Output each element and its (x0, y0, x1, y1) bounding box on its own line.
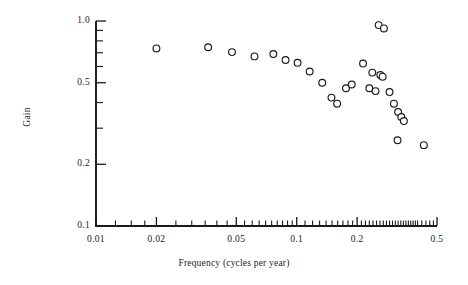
y-tick-label: 0.1 (50, 220, 90, 230)
axis-spine (96, 21, 437, 226)
data-point-marker (319, 79, 326, 86)
data-point-marker (294, 59, 301, 66)
data-point-marker (205, 44, 212, 51)
data-point-marker (328, 94, 335, 101)
x-tick-label: 0.5 (412, 234, 462, 244)
data-point-marker (360, 60, 367, 67)
x-axis-tick-marks (96, 217, 437, 226)
data-point-markers (153, 22, 427, 149)
data-point-marker (306, 68, 313, 75)
data-point-marker (394, 137, 401, 144)
data-point-marker (229, 49, 236, 56)
x-tick-label: 0.01 (71, 234, 121, 244)
data-point-marker (334, 100, 341, 107)
axis-lines (96, 21, 437, 226)
x-tick-label: 0.05 (211, 234, 261, 244)
data-point-marker (153, 45, 160, 52)
x-tick-label: 0.1 (272, 234, 322, 244)
data-point-marker (369, 69, 376, 76)
x-tick-label: 0.2 (332, 234, 382, 244)
data-point-marker (379, 73, 386, 80)
y-axis-title: Gain (22, 87, 32, 147)
figure-container: 0.010.020.050.10.20.5 0.10.20.51.0 Frequ… (0, 0, 468, 285)
data-point-marker (372, 88, 379, 95)
data-point-marker (282, 57, 289, 64)
y-tick-label: 1.0 (50, 15, 90, 25)
y-tick-label: 0.2 (50, 158, 90, 168)
data-point-marker (270, 51, 277, 58)
data-point-marker (391, 100, 398, 107)
x-tick-label: 0.02 (131, 234, 181, 244)
data-point-marker (386, 89, 393, 96)
data-point-marker (348, 81, 355, 88)
data-point-marker (381, 25, 388, 32)
data-point-marker (400, 118, 407, 125)
y-axis-tick-marks (96, 21, 106, 226)
data-point-marker (420, 142, 427, 149)
y-tick-label: 0.5 (50, 77, 90, 87)
x-axis-title: Frequency (cycles per year) (0, 258, 468, 268)
data-point-marker (251, 53, 258, 60)
